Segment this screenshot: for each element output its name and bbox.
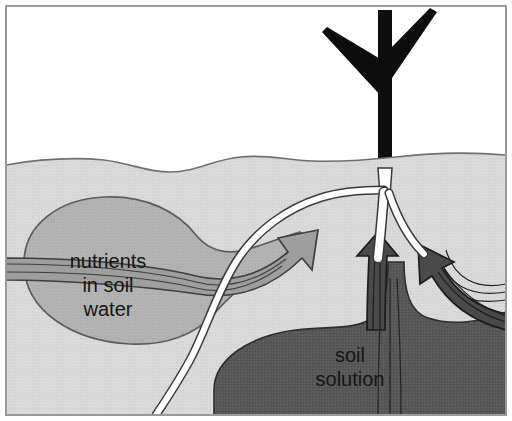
nutrients-label-line-2: in soil <box>82 274 133 296</box>
nutrients-label-line-1: nutrients <box>70 250 147 272</box>
soil-solution-label-line-1: soil <box>335 344 365 366</box>
diagram-figure: nutrients in soil water soil solution <box>0 0 512 421</box>
soil-solution-label-line-2: solution <box>316 368 385 390</box>
soil-nutrient-uptake-scene: nutrients in soil water soil solution <box>0 0 512 421</box>
nutrients-label-line-3: water <box>83 298 133 320</box>
